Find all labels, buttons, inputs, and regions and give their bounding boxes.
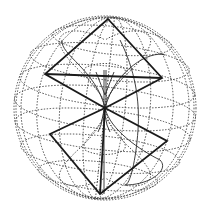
upper-square-diagonal	[45, 74, 162, 78]
center-point	[104, 107, 107, 110]
sphere-diagram	[0, 0, 209, 215]
